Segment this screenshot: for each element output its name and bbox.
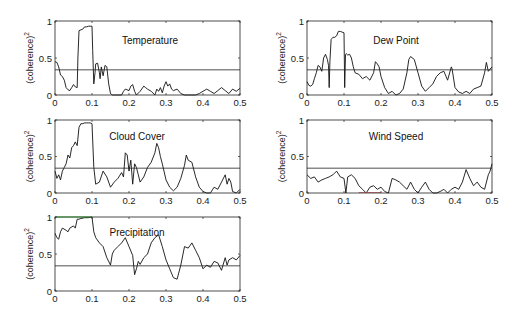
y-tick-label: 0.5 xyxy=(291,53,304,64)
y-axis-label: (coherence)2 xyxy=(23,32,35,84)
x-tick-label: 0 xyxy=(52,293,57,304)
x-tick-label: 0.4 xyxy=(196,97,209,108)
panel-cloud-cover: 00.10.20.30.40.500.51Cloud Cover(coheren… xyxy=(23,115,247,207)
x-tick-label: 0.1 xyxy=(337,97,350,108)
y-tick-label: 0 xyxy=(47,90,52,101)
x-tick-label: 0 xyxy=(304,97,309,108)
y-axis-label: (coherence)2 xyxy=(275,32,287,84)
y-axis-label: (coherence)2 xyxy=(23,130,35,182)
panel-title: Temperature xyxy=(122,35,179,46)
x-tick-label: 0.2 xyxy=(374,97,387,108)
x-tick-label: 0.5 xyxy=(233,195,246,206)
x-tick-label: 0.4 xyxy=(448,195,461,206)
panel-title: Dew Point xyxy=(373,35,419,46)
y-tick-label: 0.5 xyxy=(39,151,52,162)
panel-wind-speed: 00.10.20.30.40.500.51Wind Speed(coherenc… xyxy=(275,115,499,207)
y-tick-label: 0 xyxy=(47,188,52,199)
x-tick-label: 0.1 xyxy=(85,195,98,206)
x-tick-label: 0.4 xyxy=(196,293,209,304)
x-tick-label: 0 xyxy=(52,97,57,108)
coherence-figure: 00.10.20.30.40.500.51Temperature(coheren… xyxy=(0,0,521,318)
panel-precipitation: 00.10.20.30.40.500.51Precipitation(coher… xyxy=(23,212,247,305)
x-tick-label: 0.3 xyxy=(159,97,172,108)
x-tick-label: 0.1 xyxy=(85,97,98,108)
x-tick-label: 0.3 xyxy=(159,293,172,304)
x-tick-label: 0.2 xyxy=(122,293,135,304)
x-tick-label: 0.4 xyxy=(448,97,461,108)
x-tick-label: 0.5 xyxy=(233,97,246,108)
y-tick-label: 0 xyxy=(47,286,52,297)
y-tick-label: 0.5 xyxy=(39,249,52,260)
y-axis-label: (coherence)2 xyxy=(275,130,287,182)
x-tick-label: 0.2 xyxy=(122,195,135,206)
panel-title: Precipitation xyxy=(109,227,164,238)
y-tick-label: 1 xyxy=(47,212,52,223)
x-tick-label: 0.3 xyxy=(411,97,424,108)
y-tick-label: 1 xyxy=(299,115,304,126)
x-tick-label: 0.5 xyxy=(233,293,246,304)
x-tick-label: 0.2 xyxy=(122,97,135,108)
y-tick-label: 1 xyxy=(47,16,52,27)
x-tick-label: 0.5 xyxy=(485,97,498,108)
x-tick-label: 0.5 xyxy=(485,195,498,206)
x-tick-label: 0.2 xyxy=(374,195,387,206)
x-tick-label: 0 xyxy=(304,195,309,206)
y-tick-label: 0 xyxy=(299,188,304,199)
y-tick-label: 0 xyxy=(299,90,304,101)
x-tick-label: 0.1 xyxy=(337,195,350,206)
panel-temperature: 00.10.20.30.40.500.51Temperature(coheren… xyxy=(23,16,247,109)
y-tick-label: 0.5 xyxy=(291,151,304,162)
axes-frame xyxy=(307,21,492,95)
x-tick-label: 0.4 xyxy=(196,195,209,206)
x-tick-label: 0.3 xyxy=(411,195,424,206)
y-tick-label: 1 xyxy=(299,16,304,27)
panel-title: Cloud Cover xyxy=(109,131,165,142)
x-tick-label: 0.3 xyxy=(159,195,172,206)
y-tick-label: 0.5 xyxy=(39,53,52,64)
y-tick-label: 1 xyxy=(47,115,52,126)
x-tick-label: 0 xyxy=(52,195,57,206)
x-tick-label: 0.1 xyxy=(85,293,98,304)
panel-title: Wind Speed xyxy=(369,131,423,142)
panel-dew-point: 00.10.20.30.40.500.51Dew Point(coherence… xyxy=(275,16,499,109)
axes-frame xyxy=(55,21,240,95)
y-axis-label: (coherence)2 xyxy=(23,228,35,280)
